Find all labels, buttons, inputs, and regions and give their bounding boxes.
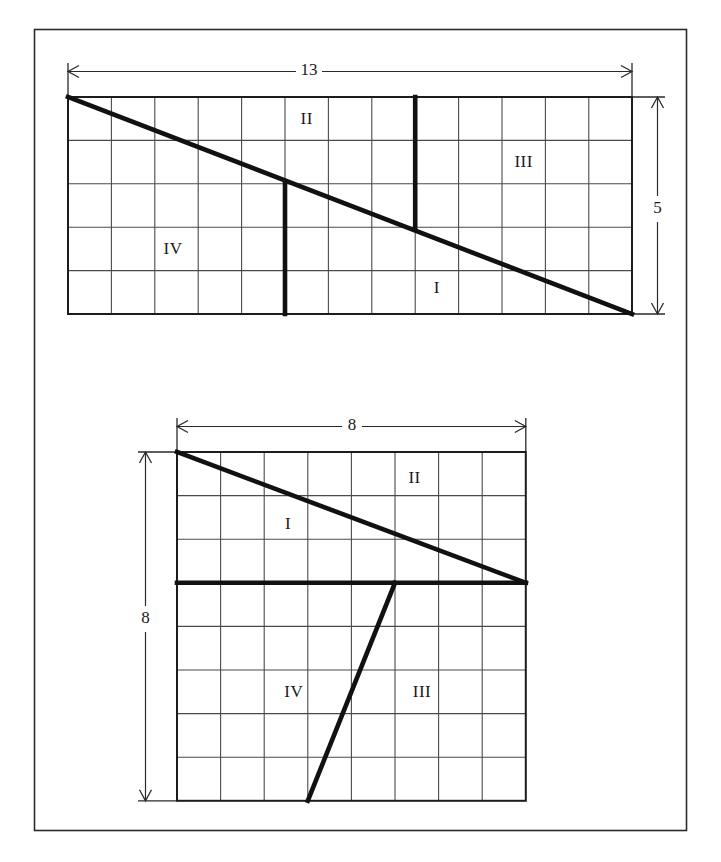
- top-width-dimension: 13: [68, 60, 632, 97]
- top-piece-label-i: I: [434, 278, 440, 297]
- bottom-piece-label-iii: III: [413, 682, 431, 701]
- top-height-label: 5: [653, 198, 662, 217]
- figure-page: 13 5: [0, 0, 721, 862]
- bottom-piece-label-iv: IV: [284, 682, 303, 701]
- top-height-dimension: 5: [632, 97, 665, 314]
- bottom-piece-label-i: I: [285, 514, 291, 533]
- top-figure-group: 13 5: [68, 60, 665, 314]
- bottom-width-label: 8: [348, 415, 357, 434]
- top-piece-label-ii: II: [301, 109, 313, 128]
- top-piece-label-iii: III: [514, 152, 532, 171]
- bottom-width-dimension: 8: [177, 415, 526, 452]
- bottom-piece-label-ii: II: [408, 468, 420, 487]
- bottom-figure-group: 8 8: [138, 415, 526, 801]
- top-piece-label-iv: IV: [164, 239, 183, 258]
- top-width-label: 13: [301, 60, 318, 79]
- bottom-height-label: 8: [141, 608, 150, 627]
- bottom-height-dimension: 8: [138, 452, 177, 801]
- dissection-paradox-figure: 13 5: [0, 0, 721, 862]
- top-diagonal-cut: [68, 97, 632, 314]
